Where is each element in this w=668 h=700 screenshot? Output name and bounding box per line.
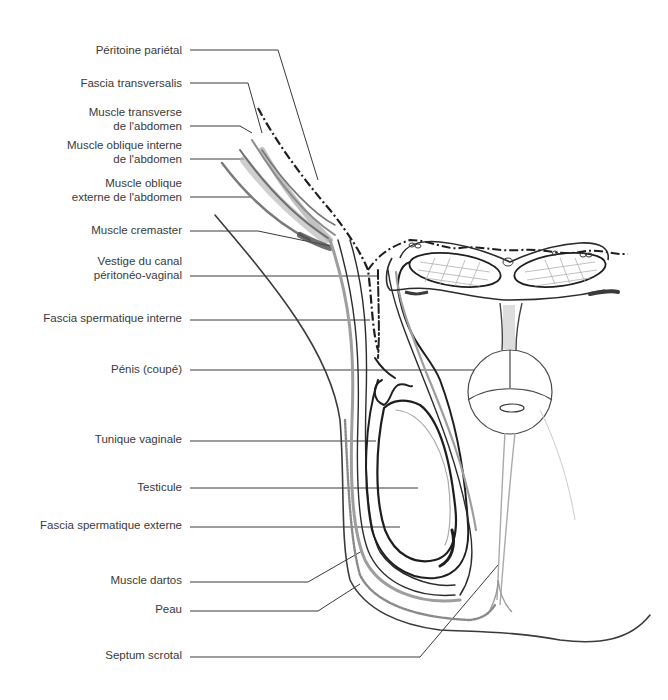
label-line: Muscle transverse [89,105,182,119]
label-muscle-cremaster: Muscle cremaster [91,223,182,237]
leader-muscle-transverse [190,126,252,133]
label-muscle-oblique-externe: Muscle oblique externe de l'abdomen [72,176,182,204]
label-line: Vestige du canal [94,254,182,268]
label-line: Muscle oblique [72,176,182,190]
label-line: Muscle oblique interne [67,138,182,152]
label-line: péritonéo-vaginal [94,268,182,282]
testis-envelopes-diagram: Péritoine pariétal Fascia transversalis … [0,0,668,700]
label-line: externe de l'abdomen [72,190,182,204]
label-line: Pénis (coupé) [111,362,182,376]
label-penis: Pénis (coupé) [111,362,182,376]
label-muscle-transverse: Muscle transverse de l'abdomen [89,105,182,133]
leader-muscle-dartos [190,551,362,582]
label-tunique-vaginale: Tunique vaginale [95,432,182,446]
leader-peritoine-parietal [190,50,318,180]
label-line: de l'abdomen [67,152,182,166]
label-line: Tunique vaginale [95,432,182,446]
label-muscle-oblique-interne: Muscle oblique interne de l'abdomen [67,138,182,166]
label-line: Muscle dartos [110,573,182,587]
label-fascia-spermatique-externe: Fascia spermatique externe [40,518,182,532]
label-line: Muscle cremaster [91,223,182,237]
label-fascia-transversalis: Fascia transversalis [80,76,182,90]
label-fascia-spermatique-interne: Fascia spermatique interne [43,311,182,325]
label-line: Peau [155,602,182,616]
label-line: Testicule [137,480,182,494]
label-peau: Peau [155,602,182,616]
label-line: Fascia transversalis [80,76,182,90]
label-testicule: Testicule [137,480,182,494]
label-line: Péritoine pariétal [96,43,182,57]
label-septum-scrotal: Septum scrotal [105,648,182,662]
label-line: Septum scrotal [105,648,182,662]
label-line: de l'abdomen [89,119,182,133]
leader-peau [190,584,360,611]
penis-section [386,242,618,300]
label-vestige-canal: Vestige du canal péritonéo-vaginal [94,254,182,282]
label-line: Fascia spermatique interne [43,311,182,325]
label-peritoine-parietal: Péritoine pariétal [96,43,182,57]
corpus-spongiosum [468,303,575,612]
label-line: Fascia spermatique externe [40,518,182,532]
label-muscle-dartos: Muscle dartos [110,573,182,587]
